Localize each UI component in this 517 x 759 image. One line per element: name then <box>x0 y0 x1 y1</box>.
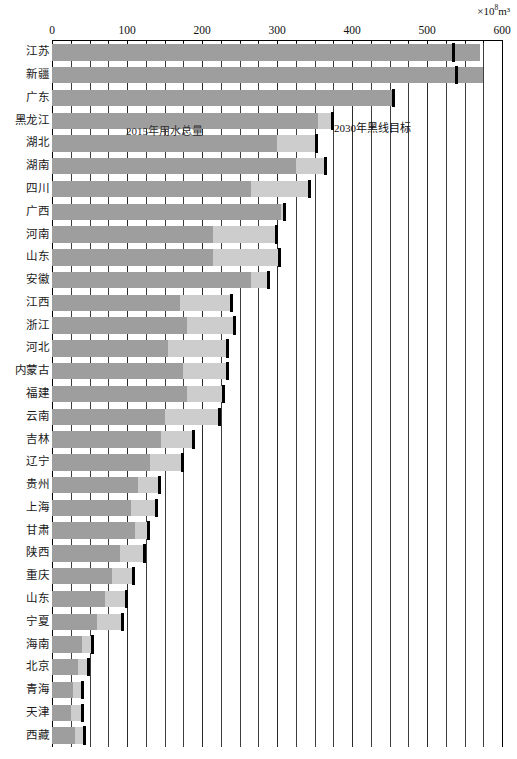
x-tick-275 <box>258 40 259 43</box>
bar-segment-main <box>52 226 213 242</box>
bar-row <box>52 614 502 630</box>
y-axis-label-8: 河南 <box>26 229 49 241</box>
x-tick-25 <box>71 40 72 43</box>
x-tick-450 <box>390 40 391 43</box>
x-tick-525 <box>446 40 447 43</box>
bar-segment-main <box>52 500 131 516</box>
unit-base: ×10 <box>477 5 494 17</box>
x-tick-label-400: 400 <box>343 24 360 36</box>
gridline-600 <box>502 41 503 747</box>
bar-segment-main <box>52 431 161 447</box>
x-tick-label-200: 200 <box>193 24 210 36</box>
bar-segment-main <box>52 67 483 83</box>
bar-segment-main <box>52 340 168 356</box>
x-tick-50 <box>90 40 91 43</box>
bar-row <box>52 363 502 379</box>
y-axis-label-15: 福建 <box>26 388 49 400</box>
target-marker <box>267 271 270 289</box>
target-marker <box>87 658 90 676</box>
target-marker <box>81 681 84 699</box>
y-axis-label-24: 山东 <box>26 593 49 605</box>
y-axis-label-22: 陕西 <box>26 547 49 559</box>
y-axis-label-14: 内蒙古 <box>15 365 49 377</box>
bar-row <box>52 591 502 607</box>
x-tick-label-100: 100 <box>118 24 135 36</box>
bar-segment-main <box>52 409 165 425</box>
bar-row <box>52 500 502 516</box>
x-tick-425 <box>371 40 372 43</box>
bar-row <box>52 67 502 83</box>
bar-segment-main <box>52 204 281 220</box>
bar-row <box>52 181 502 197</box>
bar-segment-main <box>52 545 120 561</box>
y-axis-label-28: 青海 <box>26 684 49 696</box>
target-marker <box>455 66 458 84</box>
y-axis-label-17: 吉林 <box>26 434 49 446</box>
target-marker <box>155 499 158 517</box>
y-axis-label-20: 上海 <box>26 502 49 514</box>
bar-segment-main <box>52 477 138 493</box>
bar-row <box>52 249 502 265</box>
y-axis-labels: 江苏新疆广东黑龙江湖北湖南四川广西河南山东安徽江西浙江河北内蒙古福建云南吉林辽宁… <box>0 41 49 747</box>
bar-segment-main <box>52 158 296 174</box>
y-axis-label-27: 北京 <box>26 661 49 673</box>
bar-row <box>52 158 502 174</box>
bar-row <box>52 295 502 311</box>
y-axis-label-5: 湖南 <box>26 160 49 172</box>
annotation-target-label: 2030年黑线目标 <box>334 119 411 135</box>
bar-segment-main <box>52 249 213 265</box>
y-axis-label-6: 四川 <box>26 183 49 195</box>
plot-area <box>52 41 502 747</box>
bar-row <box>52 705 502 721</box>
bar-row <box>52 477 502 493</box>
bar-segment-main <box>52 295 180 311</box>
x-tick-500 <box>427 40 428 44</box>
y-axis-label-21: 甘肃 <box>26 525 49 537</box>
target-marker <box>181 453 184 471</box>
target-marker <box>83 726 86 744</box>
x-tick-label-600: 600 <box>493 24 510 36</box>
x-tick-75 <box>108 40 109 43</box>
bar-row <box>52 317 502 333</box>
bar-row <box>52 204 502 220</box>
bar-row <box>52 659 502 675</box>
bar-row <box>52 386 502 402</box>
bar-row <box>52 226 502 242</box>
bar-segment-main <box>52 705 71 721</box>
target-marker <box>222 385 225 403</box>
target-marker <box>143 544 146 562</box>
target-marker <box>308 180 311 198</box>
axis-unit-label: ×108m³ <box>477 5 510 17</box>
y-axis-label-19: 贵州 <box>26 479 49 491</box>
x-tick-575 <box>483 40 484 43</box>
target-marker <box>147 521 150 539</box>
bar-row <box>52 545 502 561</box>
x-tick-150 <box>165 40 166 43</box>
target-marker <box>324 157 327 175</box>
x-tick-125 <box>146 40 147 43</box>
bar-segment-main <box>52 454 150 470</box>
target-marker <box>81 704 84 722</box>
target-marker <box>158 476 161 494</box>
y-axis-label-0: 江苏 <box>26 46 49 58</box>
target-marker <box>278 248 281 266</box>
target-marker <box>275 225 278 243</box>
bar-row <box>52 431 502 447</box>
bar-row <box>52 272 502 288</box>
bar-segment-main <box>52 682 73 698</box>
bar-row <box>52 682 502 698</box>
target-marker <box>315 134 318 152</box>
bar-segment-main <box>52 363 183 379</box>
bar-row <box>52 90 502 106</box>
y-axis-label-18: 辽宁 <box>26 456 49 468</box>
unit-tail: m³ <box>498 5 510 17</box>
y-axis-label-23: 重庆 <box>26 570 49 582</box>
y-axis-label-1: 新疆 <box>26 69 49 81</box>
y-axis-label-13: 河北 <box>26 342 49 354</box>
x-tick-label-500: 500 <box>418 24 435 36</box>
x-tick-250 <box>240 40 241 43</box>
bar-segment-main <box>52 90 393 106</box>
y-axis-label-9: 山东 <box>26 251 49 263</box>
bar-segment-main <box>52 181 251 197</box>
x-tick-label-300: 300 <box>268 24 285 36</box>
